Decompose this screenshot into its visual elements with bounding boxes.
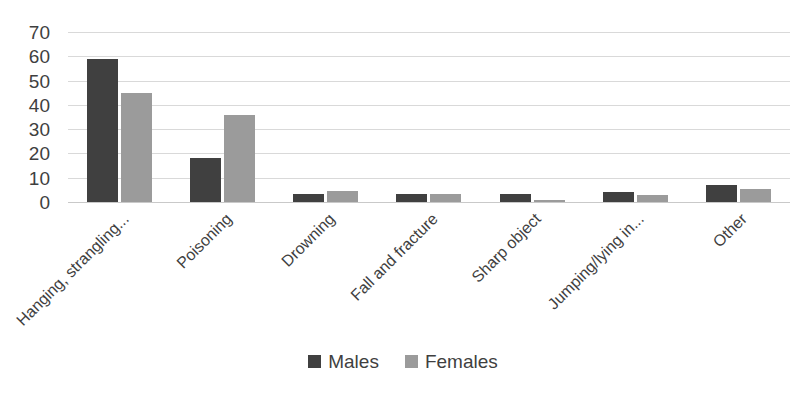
bar-males (706, 185, 737, 202)
bar-females (637, 195, 668, 202)
x-axis-label: Drowning (278, 210, 338, 270)
x-axis-label: Jumping/lying in... (545, 210, 648, 313)
bar-males (190, 158, 221, 202)
bar-group (687, 32, 790, 202)
bar-females (740, 189, 771, 202)
bars-layer (68, 32, 790, 202)
y-tick-label-20: 20 (29, 144, 50, 163)
bar-chart: 706050403020100 Hanging, strangling...Po… (0, 0, 806, 403)
bar-males (87, 59, 118, 202)
bar-group (68, 32, 171, 202)
bar-group (584, 32, 687, 202)
x-axis-label: Poisoning (173, 210, 235, 272)
bar-females (121, 93, 152, 202)
y-tick-label-60: 60 (29, 47, 50, 66)
y-tick-label-0: 0 (39, 193, 50, 212)
x-axis-label: Fall and fracture (347, 210, 441, 304)
bar-males (396, 194, 427, 203)
bar-males (603, 192, 634, 202)
bar-females (430, 194, 461, 203)
y-tick-label-70: 70 (29, 23, 50, 42)
bar-males (293, 194, 324, 203)
y-tick-label-30: 30 (29, 120, 50, 139)
y-axis: 706050403020100 (0, 32, 60, 202)
bar-group (171, 32, 274, 202)
y-tick-label-40: 40 (29, 95, 50, 114)
bar-females (224, 115, 255, 202)
legend-item[interactable]: Males (308, 352, 379, 371)
x-axis-label: Sharp object (469, 210, 545, 286)
x-axis-label: Other (710, 210, 751, 251)
y-tick-label-10: 10 (29, 168, 50, 187)
bar-females (327, 191, 358, 202)
legend-swatch-icon (308, 355, 321, 368)
bar-group (377, 32, 480, 202)
legend-label: Males (328, 352, 379, 371)
plot-area (68, 32, 790, 202)
bar-group (481, 32, 584, 202)
y-tick-label-50: 50 (29, 71, 50, 90)
bar-males (500, 194, 531, 203)
legend-swatch-icon (405, 355, 418, 368)
legend-label: Females (425, 352, 498, 371)
bar-group (274, 32, 377, 202)
chart-legend: MalesFemales (0, 352, 806, 371)
legend-item[interactable]: Females (405, 352, 498, 371)
x-axis-label: Hanging, strangling... (13, 210, 132, 329)
x-axis-category-labels: Hanging, strangling...PoisoningDrowningF… (68, 202, 790, 337)
